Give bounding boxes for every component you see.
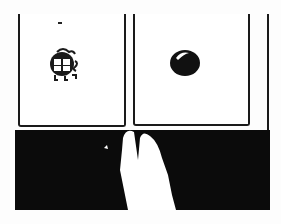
hand-icon [0,0,281,224]
scene [0,0,281,224]
